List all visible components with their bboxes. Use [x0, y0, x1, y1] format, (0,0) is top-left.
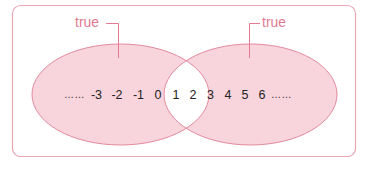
leading-ellipsis: ……	[64, 89, 85, 100]
left-only-number: -1	[133, 88, 144, 102]
left-set-label: true	[75, 14, 99, 30]
trailing-ellipsis: ……	[271, 89, 292, 100]
right-set-label: true	[262, 14, 286, 30]
intersection-number: 2	[190, 88, 197, 102]
venn-diagram: true true …… -3 -2 -1 0 1 2 3 4 5 6 ……	[0, 0, 366, 173]
right-only-number: 3	[207, 88, 214, 102]
right-only-number: 6	[259, 88, 266, 102]
intersection-number: 1	[173, 88, 180, 102]
right-only-number: 4	[225, 88, 232, 102]
left-only-number: -2	[111, 88, 122, 102]
left-only-number: -3	[91, 88, 102, 102]
left-only-number: 0	[155, 88, 162, 102]
right-only-number: 5	[242, 88, 249, 102]
